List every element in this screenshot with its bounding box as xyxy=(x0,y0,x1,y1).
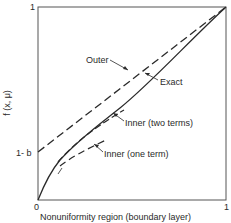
exact-curve xyxy=(38,7,226,200)
plot-area xyxy=(0,0,231,223)
inner-two-terms-annotation: Inner (two terms) xyxy=(125,118,193,128)
x-axis-label: Nonuniformity region (boundary layer) xyxy=(40,212,191,222)
exact-annotation: Exact xyxy=(160,77,183,87)
outer-annotation: Outer xyxy=(86,55,109,65)
y-axis-label: f (x, μ) xyxy=(2,90,12,116)
origin-leader xyxy=(58,168,62,174)
inner-one-term-annotation: Inner (one term) xyxy=(104,149,169,159)
outer-arrow-icon xyxy=(123,66,128,70)
x-tick-right: 1 xyxy=(224,202,229,212)
outer-curve xyxy=(38,7,226,152)
y-tick-top: 1 xyxy=(30,2,35,12)
origin-tick: 0 xyxy=(34,202,39,212)
axes-frame xyxy=(38,7,226,200)
y-tick-1-minus-b: 1- b xyxy=(16,148,32,158)
boundary-layer-diagram: 1 1- b 0 1 f (x, μ) Nonuniformity region… xyxy=(0,0,231,223)
